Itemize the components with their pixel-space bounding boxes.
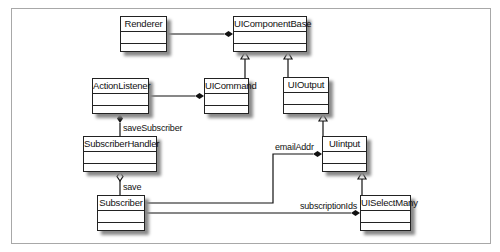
class-uicommand: UICommand — [204, 78, 249, 114]
attributes-section — [98, 211, 144, 223]
label-save: save — [123, 182, 141, 192]
subscriber-uiinput-composition — [145, 151, 322, 203]
attributes-section — [234, 32, 306, 44]
attributes-section — [84, 152, 156, 164]
class-name: ActionListener — [93, 79, 148, 94]
operations-section — [361, 223, 410, 232]
class-name: UIComponentBase — [234, 17, 306, 32]
class-uiinput: UIintput — [322, 136, 367, 172]
class-name: Subscriber — [98, 196, 144, 211]
uioutput-generalization — [284, 52, 292, 77]
label-subscriptionids: subscriptionIds — [300, 201, 357, 211]
class-actionlistener: ActionListener — [92, 78, 149, 114]
actionlistener-uicommand-composition — [148, 93, 204, 99]
label-savesubscriber: saveSubscriber — [123, 123, 182, 133]
class-name: UIOutput — [284, 78, 328, 93]
label-emailaddr: emailAddr — [275, 142, 314, 152]
class-uicomponentbase: UIComponentBase — [233, 16, 307, 52]
attributes-section — [323, 152, 366, 164]
class-uiselectmany: UISelectMany — [360, 195, 411, 231]
renderer-uicomponentbase-composition — [166, 31, 233, 37]
attributes-section — [361, 211, 410, 223]
class-uioutput: UIOutput — [283, 77, 329, 114]
operations-section — [205, 106, 248, 115]
operations-section — [323, 164, 366, 173]
operations-section — [121, 44, 166, 53]
attributes-section — [121, 32, 166, 44]
class-name: UISelectMany — [361, 196, 410, 211]
operations-section — [234, 44, 306, 53]
attributes-section — [93, 94, 148, 106]
class-subscriber: Subscriber — [97, 195, 145, 231]
operations-section — [93, 106, 148, 115]
class-name: SubscriberHandler — [84, 137, 156, 152]
uiselectmany-generalization — [358, 172, 366, 195]
class-name: UICommand — [205, 79, 248, 94]
operations-section — [84, 164, 156, 173]
operations-section — [98, 223, 144, 232]
class-name: Renderer — [121, 17, 166, 32]
class-name: UIintput — [323, 137, 366, 152]
class-subscriberhandler: SubscriberHandler — [83, 136, 157, 172]
class-renderer: Renderer — [120, 16, 167, 52]
operations-section — [284, 105, 328, 114]
attributes-section — [205, 94, 248, 106]
uicommand-generalization — [241, 52, 249, 78]
attributes-section — [284, 93, 328, 105]
uiinput-generalization — [319, 114, 327, 136]
